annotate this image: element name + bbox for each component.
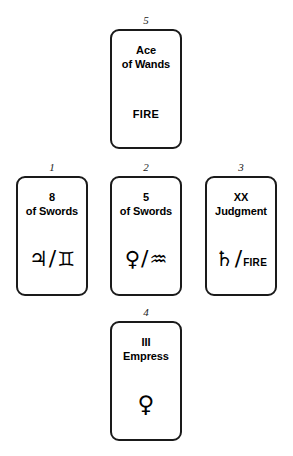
tarot-card-xx-judgment[interactable]: XX Judgment ♄ / FIRE (205, 176, 277, 296)
card-index-label-1: 1 (16, 161, 88, 174)
tarot-spread: 5 Ace of Wands FIRE 1 8 of Swords ♃ / ♊ (0, 0, 293, 456)
tarot-card-ace-of-wands[interactable]: Ace of Wands FIRE (110, 29, 182, 149)
card-attribution-3: ♄ / FIRE (207, 242, 275, 276)
tarot-card-eight-of-swords[interactable]: 8 of Swords ♃ / ♊ (16, 176, 88, 296)
card-slot-5[interactable]: 5 Ace of Wands FIRE (110, 14, 182, 149)
card-rank-3: XX (207, 191, 275, 205)
card-suit-3: Judgment (207, 205, 275, 219)
card-title-1: 8 of Swords (18, 191, 86, 218)
card-index-label-5: 5 (110, 14, 182, 27)
card-slot-2[interactable]: 2 5 of Swords ♀ / ♒ (110, 161, 182, 296)
card-suit-2: of Swords (112, 205, 180, 219)
jupiter-icon: ♃ (29, 249, 48, 270)
card-index-label-3: 3 (205, 161, 277, 174)
card-rank-2: 5 (112, 191, 180, 205)
card-attribution-1: ♃ / ♊ (18, 242, 86, 276)
card-slot-1[interactable]: 1 8 of Swords ♃ / ♊ (16, 161, 88, 296)
card-title-5: Ace of Wands (112, 44, 180, 71)
card-slot-3[interactable]: 3 XX Judgment ♄ / FIRE (205, 161, 277, 296)
venus-icon: ♀ (125, 249, 140, 270)
card-attribution-4: ♀ (112, 387, 180, 421)
card-attribution-5: FIRE (112, 97, 180, 131)
card-rank-4: III (112, 336, 180, 350)
separator-slash-3: / (234, 248, 243, 270)
venus-icon-4: ♀ (138, 394, 155, 415)
aquarius-icon: ♒ (149, 249, 167, 270)
card-rank-1: 8 (18, 191, 86, 205)
saturn-icon: ♄ (215, 249, 234, 270)
separator-slash-1: / (48, 248, 57, 270)
card-title-2: 5 of Swords (112, 191, 180, 218)
card-slot-4[interactable]: 4 III Empress ♀ (110, 306, 182, 441)
card-suit-4: Empress (112, 350, 180, 364)
card-index-label-4: 4 (110, 306, 182, 319)
separator-slash-2: / (140, 248, 149, 270)
card-rank-5: Ace (112, 44, 180, 58)
tarot-card-five-of-swords[interactable]: 5 of Swords ♀ / ♒ (110, 176, 182, 296)
card-index-label-2: 2 (110, 161, 182, 174)
element-label-fire: FIRE (133, 108, 160, 120)
tarot-card-iii-empress[interactable]: III Empress ♀ (110, 321, 182, 441)
card-suit-5: of Wands (112, 58, 180, 72)
gemini-icon: ♊ (57, 249, 75, 270)
card-title-4: III Empress (112, 336, 180, 363)
card-attribution-2: ♀ / ♒ (112, 242, 180, 276)
element-label-fire-3: FIRE (243, 257, 267, 268)
card-title-3: XX Judgment (207, 191, 275, 218)
card-suit-1: of Swords (18, 205, 86, 219)
